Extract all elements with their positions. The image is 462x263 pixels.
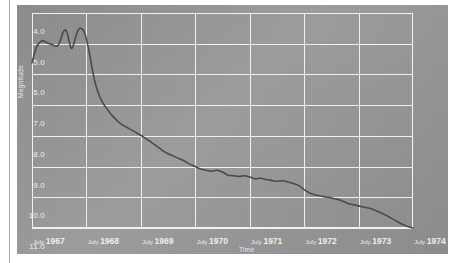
x-tick-month: July: [306, 239, 318, 245]
series-line-chart: [32, 13, 413, 228]
x-tick-month: July: [88, 239, 100, 245]
x-tick-month: July: [33, 239, 45, 245]
x-axis-tick-label: July 1971: [251, 236, 282, 246]
x-tick-year: 1967: [46, 236, 65, 246]
x-tick-year: 1970: [209, 236, 228, 246]
chart-page: Magnitude Time 4.05.06.07.08.09.010.011.…: [0, 0, 462, 263]
x-tick-year: 1972: [318, 236, 337, 246]
x-tick-month: July: [197, 239, 209, 245]
x-axis-tick-label: July 1970: [197, 236, 228, 246]
series-path-magnitude: [32, 28, 413, 228]
x-axis-tick-label: July 1972: [306, 236, 337, 246]
x-axis-tick-label: July 1967: [33, 236, 64, 246]
x-tick-year: 1974: [427, 236, 446, 246]
x-axis-tick-label: July 1968: [88, 236, 119, 246]
x-tick-year: 1973: [372, 236, 391, 246]
x-tick-year: 1969: [155, 236, 174, 246]
x-axis-tick-label: July 1973: [360, 236, 391, 246]
x-axis-tick-label: July 1974: [414, 236, 445, 246]
x-tick-month: July: [360, 239, 372, 245]
x-tick-month: July: [414, 239, 426, 245]
plot-area: [32, 13, 413, 228]
x-axis-tick-labels: July 1967July 1968July 1969July 1970July…: [49, 236, 430, 250]
x-axis-tick-label: July 1969: [142, 236, 173, 246]
gridline-horizontal: [32, 228, 413, 229]
x-tick-month: July: [251, 239, 263, 245]
x-tick-month: July: [142, 239, 154, 245]
x-tick-year: 1971: [263, 236, 282, 246]
x-tick-year: 1968: [100, 236, 119, 246]
